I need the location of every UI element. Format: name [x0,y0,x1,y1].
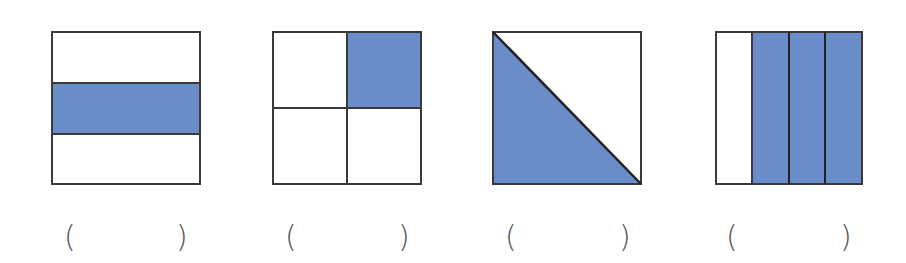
answer-4-open-paren: ( [726,222,738,252]
answer-2-close-paren: ) [398,222,410,252]
figure-4-vertical-quarters [714,30,866,188]
figure-1-horizontal-thirds [50,30,204,188]
answer-4-close-paren: ) [840,222,852,252]
answer-2-open-paren: ( [285,222,297,252]
answer-3-open-paren: ( [505,222,517,252]
figure-3-diagonal-halves [491,30,645,188]
answer-1-open-paren: ( [64,222,76,252]
answer-3-close-paren: ) [619,222,631,252]
answer-1-close-paren: ) [176,222,188,252]
figure-2-quarters [271,30,425,188]
